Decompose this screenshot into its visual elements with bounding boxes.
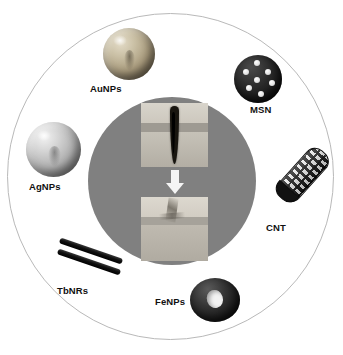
msn-pore: [254, 60, 260, 66]
label-msn: MSN: [250, 104, 271, 115]
msn-pore: [243, 69, 249, 75]
msn-pore: [258, 91, 264, 97]
label-tbnrs: TbNRs: [57, 285, 88, 296]
gold-nanoparticle-icon: [103, 28, 155, 80]
msn-pore: [246, 85, 252, 91]
label-cnt: CNT: [266, 222, 286, 233]
iron-oxide-nanoparticle-icon: [190, 278, 240, 322]
nanomaterial-agnps: [26, 122, 81, 177]
wounded-tissue-panel: [141, 103, 208, 167]
silver-nanoparticle-icon: [26, 122, 81, 177]
msn-pore: [269, 80, 275, 86]
label-aunps: AuNPs: [90, 83, 122, 94]
figure-canvas: AuNPs MSN AgNPs CNT: [0, 0, 343, 355]
healing-process-arrow-icon: [166, 170, 184, 194]
arrow-shaft: [171, 170, 179, 184]
label-fenps: FeNPs: [155, 296, 185, 307]
nanomaterial-cnt: [272, 162, 334, 188]
nanomaterial-tbnrs: [56, 240, 128, 284]
arrow-head: [166, 183, 184, 194]
nanomaterial-aunps: [103, 28, 155, 80]
tissue-subcutaneous-layer: [141, 225, 208, 261]
msn-pore: [265, 69, 271, 75]
mesoporous-silica-nanoparticle-icon: [234, 55, 282, 103]
terbium-nanorods-icon: [56, 240, 128, 284]
msn-pore: [254, 77, 260, 83]
healed-tissue-panel: [141, 197, 208, 261]
nanomaterial-msn: [234, 55, 282, 103]
label-agnps: AgNPs: [29, 181, 61, 192]
sphere-highlight: [37, 130, 51, 141]
nanomaterial-fenps: [190, 278, 240, 322]
torus-center-hole: [204, 288, 224, 310]
sphere-highlight: [113, 35, 127, 45]
